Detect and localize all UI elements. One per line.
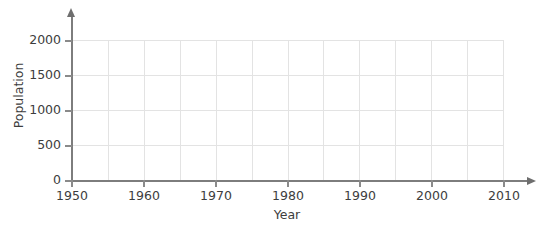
x-tick-label-1970: 1970: [181, 190, 251, 203]
x-axis-title: Year: [252, 207, 322, 222]
gridline-vertical-2005: [467, 40, 468, 180]
gridline-vertical-1955: [108, 40, 109, 180]
gridline-vertical-1980: [288, 40, 289, 180]
y-tick-1000: [65, 110, 72, 112]
y-tick-500: [65, 145, 72, 147]
y-axis-title: Population: [11, 50, 26, 142]
x-axis-line: [71, 180, 528, 182]
gridline-vertical-1970: [216, 40, 217, 180]
x-tick-1960: [143, 180, 145, 187]
y-tick-label-1000: 1000: [0, 104, 61, 117]
y-tick-label-0: 0: [0, 174, 61, 187]
x-tick-1990: [359, 180, 361, 187]
x-tick-label-1950: 1950: [37, 190, 107, 203]
y-tick-2000: [65, 40, 72, 42]
gridline-vertical-1995: [395, 40, 396, 180]
x-tick-1980: [287, 180, 289, 187]
x-tick-1950: [71, 180, 73, 187]
x-tick-1970: [215, 180, 217, 187]
x-tick-label-2000: 2000: [397, 190, 467, 203]
y-tick-1500: [65, 75, 72, 77]
y-tick-label-500: 500: [0, 139, 61, 152]
gridline-vertical-1990: [359, 40, 360, 180]
gridline-vertical-1960: [144, 40, 145, 180]
gridline-vertical-1985: [323, 40, 324, 180]
x-tick-label-1960: 1960: [109, 190, 179, 203]
y-axis-arrow-icon: [67, 8, 75, 17]
plot-area: [72, 40, 503, 180]
gridline-vertical-1975: [252, 40, 253, 180]
x-tick-label-2010: 2010: [469, 190, 539, 203]
x-axis-arrow-icon: [527, 177, 536, 185]
gridline-vertical-2010: [503, 40, 504, 180]
x-tick-2010: [503, 180, 505, 187]
x-tick-2000: [431, 180, 433, 187]
gridline-vertical-1965: [180, 40, 181, 180]
gridline-vertical-2000: [431, 40, 432, 180]
x-tick-label-1990: 1990: [325, 190, 395, 203]
chart-figure: 2000 1500 1000 500 0 1950 1960 1970 1980…: [0, 0, 546, 228]
y-tick-label-1500: 1500: [0, 69, 61, 82]
y-tick-label-2000: 2000: [0, 34, 61, 47]
x-tick-label-1980: 1980: [253, 190, 323, 203]
